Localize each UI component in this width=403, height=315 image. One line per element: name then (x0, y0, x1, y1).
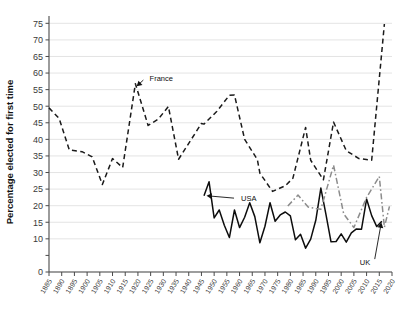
y-axis-tick-label: 35 (33, 151, 43, 161)
y-axis-tick-label: 0 (38, 267, 43, 277)
annotation-label-usa: USA (241, 194, 256, 203)
y-axis-tick-label: 30 (33, 168, 43, 178)
annotation-label-uk: UK (360, 258, 370, 267)
line-chart: 01015202530354045505560657075 1885189018… (0, 0, 403, 315)
y-axis-tick-label: 20 (33, 201, 43, 211)
y-axis-title: Percentage elected for first time (4, 80, 15, 225)
annotation-label-france: France (150, 74, 173, 83)
y-axis-tick-label: 70 (33, 35, 43, 45)
y-axis-tick-label: 65 (33, 52, 43, 62)
y-axis-tick-label: 55 (33, 85, 43, 95)
y-axis-tick-label: 10 (33, 234, 43, 244)
y-axis-tick-label: 60 (33, 68, 43, 78)
y-axis-tick-label: 25 (33, 184, 43, 194)
y-axis-tick-label: 40 (33, 135, 43, 145)
y-axis-title-text: Percentage elected for first time (4, 80, 15, 225)
y-axis-tick-label: 75 (33, 19, 43, 29)
y-axis-tick-label: 45 (33, 118, 43, 128)
y-axis-tick-label: 50 (33, 102, 43, 112)
chart-container: 01015202530354045505560657075 1885189018… (0, 0, 403, 315)
chart-background (0, 0, 403, 315)
y-axis-tick-label: 15 (33, 218, 43, 228)
